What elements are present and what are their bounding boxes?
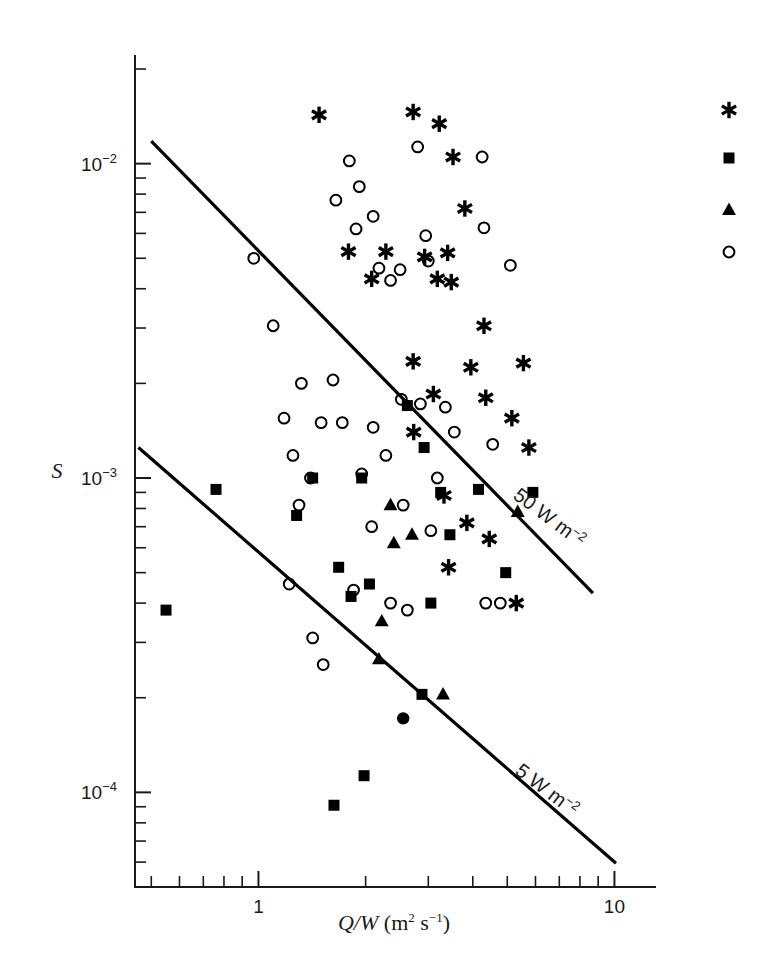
data-point-circle-open xyxy=(248,253,259,264)
legend-marker-asterisk[interactable] xyxy=(722,102,736,118)
data-point-triangle xyxy=(405,527,419,539)
data-point-circle-open xyxy=(385,275,396,286)
axis-ticks xyxy=(135,69,614,887)
data-point-square xyxy=(416,689,427,700)
data-point-circle-open xyxy=(412,142,423,153)
data-point-asterisk xyxy=(516,355,530,371)
data-point-square xyxy=(473,484,484,495)
data-point-asterisk xyxy=(458,200,472,216)
legend-marker-circle-open[interactable] xyxy=(724,247,735,258)
scatter-plot: 10−210−310−4110 50 W m−25 W m−2 Q/W (m2 … xyxy=(0,0,757,979)
data-point-asterisk xyxy=(406,104,420,120)
data-point-asterisk xyxy=(460,515,474,531)
data-point-circle-open xyxy=(385,598,396,609)
data-point-square xyxy=(402,400,413,411)
data-point-circle-open xyxy=(368,422,379,433)
data-point-circle-open xyxy=(480,598,491,609)
data-point-asterisk xyxy=(509,595,523,611)
data-point-asterisk xyxy=(464,359,478,375)
data-point-asterisk xyxy=(441,245,455,261)
data-point-circle-open xyxy=(402,605,413,616)
data-point-circle-filled xyxy=(397,712,409,724)
x-axis-title: Q/W (m2 s−1) xyxy=(338,910,450,935)
data-point-asterisk xyxy=(444,274,458,290)
y-tick-label: 10−3 xyxy=(81,465,117,489)
data-point-circle-open xyxy=(316,417,327,428)
data-point-square xyxy=(333,562,344,573)
data-point-circle-open xyxy=(479,222,490,233)
data-point-circle-open xyxy=(380,450,391,461)
series-asterisk xyxy=(312,104,536,612)
series-circle-filled xyxy=(397,712,409,724)
data-point-asterisk xyxy=(426,386,440,402)
data-point-circle-open xyxy=(415,399,426,410)
data-point-circle-open xyxy=(337,417,348,428)
data-point-circle-open xyxy=(318,659,329,670)
data-point-circle-open xyxy=(487,439,498,450)
data-point-circle-open xyxy=(330,195,341,206)
data-point-asterisk xyxy=(505,410,519,426)
data-point-square xyxy=(425,598,436,609)
data-point-asterisk xyxy=(446,149,460,165)
data-point-asterisk xyxy=(407,424,421,440)
data-point-circle-open xyxy=(288,450,299,461)
data-point-square xyxy=(291,510,302,521)
data-point-circle-open xyxy=(351,224,362,235)
data-point-circle-open xyxy=(374,263,385,274)
data-point-circle-open xyxy=(398,500,409,511)
data-point-circle-open xyxy=(344,156,355,167)
data-point-square xyxy=(328,800,339,811)
data-point-asterisk xyxy=(379,243,393,259)
data-point-circle-open xyxy=(294,500,305,511)
legend-marker-triangle[interactable] xyxy=(722,203,736,215)
series-circle-open xyxy=(248,142,515,670)
axes xyxy=(135,56,655,887)
data-point-square xyxy=(435,487,446,498)
data-point-circle-open xyxy=(477,152,488,163)
data-point-triangle xyxy=(375,614,389,626)
y-axis-title: S xyxy=(52,458,63,483)
data-point-square xyxy=(161,605,172,616)
x-tick-label: 10 xyxy=(604,896,625,917)
data-point-circle-open xyxy=(268,320,279,331)
data-point-circle-open xyxy=(296,378,307,389)
data-point-asterisk xyxy=(430,271,444,287)
y-tick-label: 10−4 xyxy=(81,779,117,803)
data-point-asterisk xyxy=(477,318,491,334)
data-point-square xyxy=(419,442,430,453)
data-point-square xyxy=(500,567,511,578)
figure-container: 10−210−310−4110 50 W m−25 W m−2 Q/W (m2 … xyxy=(0,0,757,979)
data-point-asterisk xyxy=(441,559,455,575)
data-point-circle-open xyxy=(395,264,406,275)
data-point-asterisk xyxy=(482,531,496,547)
data-point-square xyxy=(359,770,370,781)
y-tick-label: 10−2 xyxy=(81,151,117,175)
legend-marker-square[interactable] xyxy=(724,153,735,164)
data-point-circle-open xyxy=(366,521,377,532)
data-point-circle-open xyxy=(449,427,460,438)
data-point-circle-open xyxy=(279,413,290,424)
data-point-asterisk xyxy=(406,353,420,369)
data-point-circle-open xyxy=(368,211,379,222)
data-point-circle-open xyxy=(505,260,516,271)
data-point-circle-open xyxy=(440,402,451,413)
data-point-asterisk xyxy=(522,439,536,455)
data-point-square xyxy=(444,529,455,540)
data-point-square xyxy=(364,579,375,590)
data-point-circle-open xyxy=(425,525,436,536)
data-point-asterisk xyxy=(479,390,493,406)
data-point-circle-open xyxy=(432,473,443,484)
data-point-asterisk xyxy=(432,115,446,131)
data-point-triangle xyxy=(436,687,450,699)
data-point-square xyxy=(346,591,357,602)
data-point-circle-open xyxy=(328,375,339,386)
data-point-triangle xyxy=(384,498,398,510)
data-point-square xyxy=(211,484,222,495)
data-point-asterisk xyxy=(312,107,326,123)
x-tick-label: 1 xyxy=(253,896,264,917)
data-point-circle-open xyxy=(420,230,431,241)
data-point-asterisk xyxy=(341,243,355,259)
line-annotations: 50 W m−25 W m−2 xyxy=(510,482,591,820)
reference-line xyxy=(151,141,593,593)
data-point-triangle xyxy=(387,536,401,548)
